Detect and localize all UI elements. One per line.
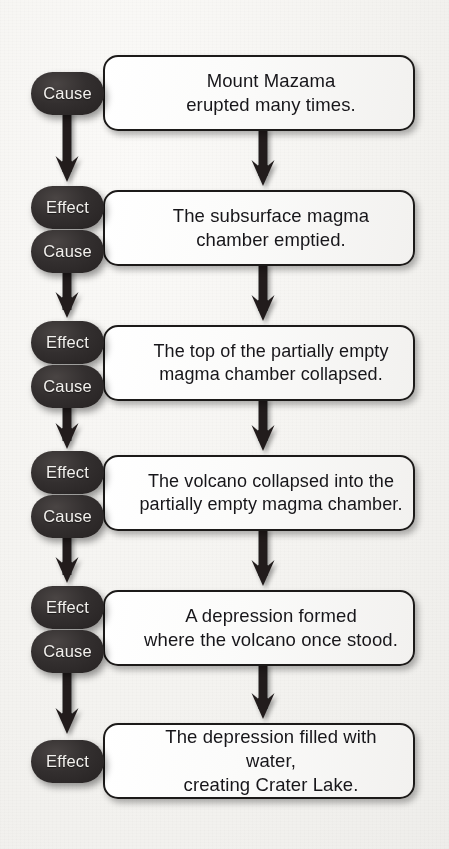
pill-effect-3: Effect <box>31 321 104 364</box>
statement-text-2: The subsurface magma chamber emptied. <box>139 204 379 251</box>
arrow-center-2-to-3 <box>252 263 275 321</box>
statement-box-4: The volcano collapsed into the partially… <box>103 455 415 531</box>
pill-effect-5: Effect <box>31 586 104 629</box>
statement-box-5: A depression formed where the volcano on… <box>103 590 415 666</box>
statement-text-6: The depression filled with water, creati… <box>105 725 413 796</box>
statement-box-2: The subsurface magma chamber emptied. <box>103 190 415 266</box>
statement-box-3: The top of the partially empty magma cha… <box>103 325 415 401</box>
pill-cause-5: Cause <box>31 630 104 673</box>
pill-label: Effect <box>46 599 89 616</box>
arrow-left-5-to-6 <box>56 668 79 734</box>
pill-label: Cause <box>43 243 92 260</box>
pill-label: Cause <box>43 508 92 525</box>
pill-cause-3: Cause <box>31 365 104 408</box>
arrow-left-4-to-5 <box>56 533 79 583</box>
pill-effect-2: Effect <box>31 186 104 229</box>
arrow-left-1-to-2 <box>56 110 79 182</box>
pill-label: Cause <box>43 643 92 660</box>
statement-text-1: Mount Mazama erupted many times. <box>152 69 366 116</box>
arrow-center-1-to-2 <box>252 128 275 186</box>
pill-label: Effect <box>46 464 89 481</box>
pill-label: Effect <box>46 199 89 216</box>
statement-text-3: The top of the partially empty magma cha… <box>119 340 398 386</box>
statement-text-5: A depression formed where the volcano on… <box>110 604 408 651</box>
pill-cause-4: Cause <box>31 495 104 538</box>
arrow-left-3-to-4 <box>56 403 79 449</box>
arrow-left-2-to-3 <box>56 268 79 318</box>
statement-box-6: The depression filled with water, creati… <box>103 723 415 799</box>
statement-text-4: The volcano collapsed into the partially… <box>105 470 412 516</box>
pill-label: Cause <box>43 85 92 102</box>
pill-effect-4: Effect <box>31 451 104 494</box>
statement-box-1: Mount Mazama erupted many times. <box>103 55 415 131</box>
pill-label: Effect <box>46 334 89 351</box>
arrow-center-5-to-6 <box>252 663 275 719</box>
arrow-center-4-to-5 <box>252 528 275 586</box>
arrow-center-3-to-4 <box>252 398 275 451</box>
diagram-canvas: Mount Mazama erupted many times. Cause T… <box>0 0 449 849</box>
pill-cause-2: Cause <box>31 230 104 273</box>
pill-cause-1: Cause <box>31 72 104 115</box>
pill-label: Effect <box>46 753 89 770</box>
pill-label: Cause <box>43 378 92 395</box>
pill-effect-6: Effect <box>31 740 104 783</box>
